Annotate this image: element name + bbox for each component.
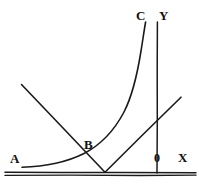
figure-drawing xyxy=(0,0,199,185)
label-point-b: B xyxy=(84,138,93,151)
label-x-axis: X xyxy=(178,151,187,164)
ascending-line-path xyxy=(105,97,181,172)
figure-container: A B C Y 0 X xyxy=(0,0,199,185)
label-origin: 0 xyxy=(154,152,160,164)
x-axis xyxy=(5,172,196,175)
label-point-a: A xyxy=(10,152,19,165)
ascending-line xyxy=(105,97,181,172)
descending-line-path xyxy=(22,85,106,173)
label-y-axis: Y xyxy=(159,9,168,22)
x-axis-line-upper xyxy=(5,172,196,173)
descending-line xyxy=(22,85,106,173)
label-point-c: C xyxy=(136,9,145,22)
